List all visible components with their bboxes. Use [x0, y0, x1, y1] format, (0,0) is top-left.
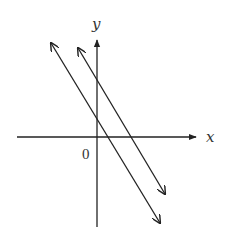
origin-label: 0	[82, 146, 90, 162]
x-axis-label: x	[206, 128, 215, 146]
coordinate-graph: y x 0	[0, 0, 226, 239]
lower-line	[51, 43, 160, 223]
y-axis-label: y	[91, 15, 101, 33]
upper-line	[78, 48, 165, 194]
